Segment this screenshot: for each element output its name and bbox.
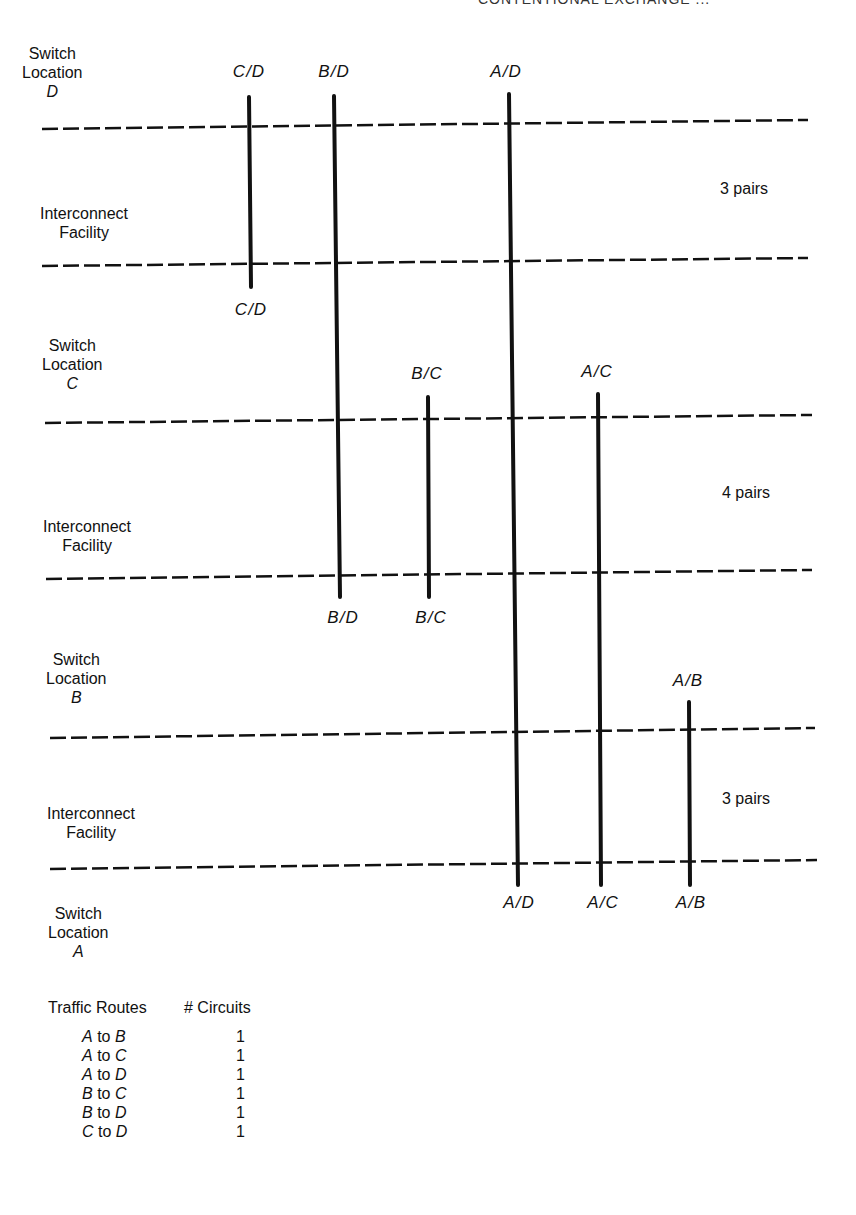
circuit-label-bc-top: B/C <box>411 364 442 384</box>
circuit-bar-ad <box>509 94 518 885</box>
table-header: Traffic Routes # Circuits <box>48 999 251 1017</box>
switch-letter-d: D <box>22 82 83 101</box>
switch-letter-b: B <box>46 688 107 707</box>
boundary-line-ifd <box>42 258 808 266</box>
table-row: A to C 1 <box>48 1046 251 1065</box>
row-label-interconnect-2: Interconnect Facility <box>43 517 131 555</box>
table-row: A to B 1 <box>48 1027 251 1046</box>
pairs-count-interconnect-2: 4 pairs <box>722 484 770 502</box>
circuit-label-ad-top: A/D <box>490 62 521 82</box>
circuit-label-ac-top: A/C <box>581 362 612 382</box>
row-label-switch-a: Switch Location A <box>48 904 109 961</box>
table-row: B to D 1 <box>48 1103 251 1122</box>
header-traffic-routes: Traffic Routes <box>48 999 184 1017</box>
circuit-bar-bd <box>334 96 340 597</box>
circuit-bar-ac <box>598 394 601 885</box>
circuit-label-ab-bottom: A/B <box>676 893 706 913</box>
row-label-switch-c: Switch Location C <box>42 336 103 393</box>
row-label-switch-d: Switch Location D <box>22 44 83 101</box>
circuit-label-ac-bottom: A/C <box>587 893 618 913</box>
circuit-bar-bc <box>428 397 429 597</box>
table-row: A to D 1 <box>48 1065 251 1084</box>
row-label-switch-b: Switch Location B <box>46 650 107 707</box>
circuit-label-bd-bottom: B/D <box>327 608 358 628</box>
switch-letter-c: C <box>42 374 103 393</box>
traffic-routes-table: Traffic Routes # Circuits A to B 1 A to … <box>48 999 251 1141</box>
circuit-bar-ab <box>689 702 690 885</box>
circuit-label-ab-top: A/B <box>673 671 703 691</box>
row-label-interconnect-1: Interconnect Facility <box>40 204 128 242</box>
table-row: B to C 1 <box>48 1084 251 1103</box>
boundary-line-b <box>50 728 815 738</box>
boundary-line-ia <box>50 860 817 869</box>
boundary-line-d <box>42 120 808 129</box>
circuit-label-bd-top: B/D <box>318 62 349 82</box>
pairs-count-interconnect-3: 3 pairs <box>722 790 770 808</box>
circuit-label-cd-top: C/D <box>233 62 265 82</box>
header-circuits: # Circuits <box>184 999 251 1017</box>
circuit-bar-cd <box>249 97 251 287</box>
circuit-label-ad-bottom: A/D <box>503 893 534 913</box>
row-label-interconnect-3: Interconnect Facility <box>47 804 135 842</box>
pairs-count-interconnect-1: 3 pairs <box>720 180 768 198</box>
table-row: C to D 1 <box>48 1122 251 1141</box>
switch-letter-a: A <box>48 942 109 961</box>
circuit-label-cd-bottom: C/D <box>235 300 267 320</box>
circuit-label-bc-bottom: B/C <box>415 608 446 628</box>
